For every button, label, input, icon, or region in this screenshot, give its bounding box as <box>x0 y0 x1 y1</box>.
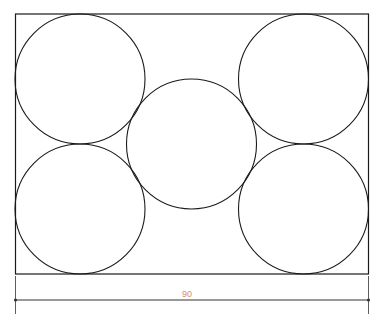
dimension-tick-right <box>367 298 370 301</box>
drawing-canvas: 90 <box>0 0 380 325</box>
circle-top-left <box>15 14 145 144</box>
dimension-tick-left <box>14 298 17 301</box>
circle-bottom-right <box>239 144 369 274</box>
width-dimension: 90 <box>14 276 370 314</box>
circle-center <box>127 79 257 209</box>
circle-top-right <box>239 14 369 144</box>
circles-group <box>15 14 369 274</box>
outer-rectangle <box>16 14 369 274</box>
dimension-label: 90 <box>182 289 192 299</box>
circle-bottom-left <box>15 144 145 274</box>
